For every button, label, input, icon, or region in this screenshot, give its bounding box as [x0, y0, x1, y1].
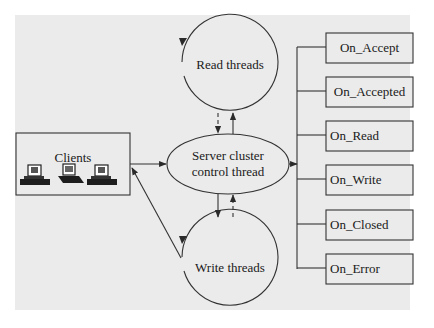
event-label: On_Accepted — [334, 84, 406, 99]
event-label: On_Error — [330, 261, 380, 276]
event-label: On_Accept — [340, 40, 400, 55]
event-label: On_Write — [330, 172, 382, 187]
clients-node: Clients — [16, 133, 130, 195]
server-label-line1: Server cluster — [192, 148, 265, 163]
thread-architecture-diagram: Read threads Write threads Server cluste… — [0, 0, 434, 328]
event-label: On_Closed — [330, 217, 389, 232]
read-threads-label: Read threads — [196, 57, 264, 72]
event-label: On_Read — [330, 128, 380, 143]
server-cluster-node: Server cluster control thread — [167, 134, 289, 194]
clients-label: Clients — [55, 150, 92, 165]
write-threads-label: Write threads — [195, 260, 265, 275]
server-label-line2: control thread — [192, 164, 265, 179]
